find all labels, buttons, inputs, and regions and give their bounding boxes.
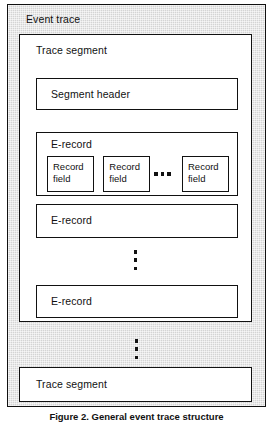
ellipsis-dot [134,250,138,254]
ellipsis-dot [135,356,139,360]
trace-segment-box-bottom: Trace segment [19,367,252,402]
record-field-box-1: Record field [47,156,94,192]
trace-segment-vertical-ellipsis-icon [134,339,140,359]
ellipsis-dot [134,267,138,271]
segment-header-label: Segment header [51,88,130,100]
event-trace-frame: Event trace Trace segment Segment header… [7,4,266,407]
event-trace-label: Event trace [26,13,80,25]
trace-segment-top-label: Trace segment [36,44,107,56]
record-field-3-line1: Record [188,161,228,173]
ellipsis-dot [167,172,171,176]
ellipsis-dot [135,347,139,351]
e-record-expanded-label: E-record [51,138,92,150]
e-record-3-label: E-record [51,295,92,307]
figure-event-trace-structure: Event trace Trace segment Segment header… [0,0,273,425]
trace-segment-bottom-label: Trace segment [36,378,107,390]
trace-segment-box-top: Trace segment Segment header E-record Re… [19,34,252,322]
e-record-2-label: E-record [51,214,92,226]
segment-header-box: Segment header [36,78,238,110]
e-record-box-3: E-record [36,285,238,318]
ellipsis-dot [134,258,138,262]
ellipsis-dot [154,172,158,176]
record-field-1-line2: field [53,173,93,185]
record-field-box-3: Record field [182,156,229,192]
record-field-horizontal-ellipsis-icon [150,156,174,192]
figure-caption: Figure 2. General event trace structure [0,411,273,422]
e-record-vertical-ellipsis-icon [133,250,139,270]
record-field-2-line2: field [109,173,149,185]
record-field-box-2: Record field [103,156,150,192]
record-field-row: Record field Record field [47,156,229,192]
e-record-box-2: E-record [36,204,238,238]
record-field-3-line2: field [188,173,228,185]
ellipsis-dot [135,339,139,343]
e-record-box-expanded: E-record Record field Record field [36,132,238,196]
ellipsis-dot [161,172,165,176]
record-field-1-line1: Record [53,161,93,173]
record-field-2-line1: Record [109,161,149,173]
